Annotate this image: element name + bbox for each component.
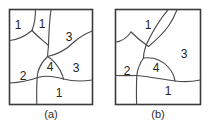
panel-a: 1 1 3 4 3 2 1 [10, 10, 93, 105]
panel-b: 1 3 4 2 1 [116, 10, 201, 105]
panel-a-label-region-mid-right: 3 [73, 61, 80, 75]
panel-a-edge-3 [32, 31, 49, 46]
panel-b-label-region-center: 4 [153, 61, 160, 75]
panel-a-caption: (a) [9, 108, 93, 120]
panel-a-edge-2 [32, 10, 36, 31]
panel-a-label-region-top-left: 1 [15, 18, 22, 32]
panel-b-label-region-left: 2 [124, 64, 131, 78]
panel-a-label-region-bottom: 1 [56, 86, 63, 100]
panel-a-edge-1 [10, 31, 32, 41]
panel-b-edge-9 [137, 76, 200, 82]
panel-b-edge-6 [137, 58, 144, 76]
panel-a-label-region-upper-right: 3 [66, 30, 73, 44]
figure-container: 1 1 3 4 3 2 1 [0, 0, 208, 131]
panel-a-edge-4 [49, 10, 52, 46]
panel-a-edge-10 [64, 79, 93, 81]
panel-b-label-region-top: 1 [145, 18, 152, 32]
panel-b-edge-2 [131, 32, 149, 47]
panel-b-edge-4 [149, 10, 178, 47]
panel-a-label-region-top-center: 1 [39, 17, 46, 31]
panel-a-border [10, 10, 93, 105]
panel-a-edge-5 [48, 46, 49, 57]
panel-b-label-region-bottom: 1 [165, 84, 172, 98]
panel-b-edge-1 [116, 32, 131, 42]
panel-a-label-region-left: 2 [20, 69, 27, 83]
panel-a-label-region-center: 4 [47, 60, 54, 74]
panel-b-label-region-right: 3 [181, 47, 188, 61]
panel-b-caption: (b) [115, 108, 201, 120]
